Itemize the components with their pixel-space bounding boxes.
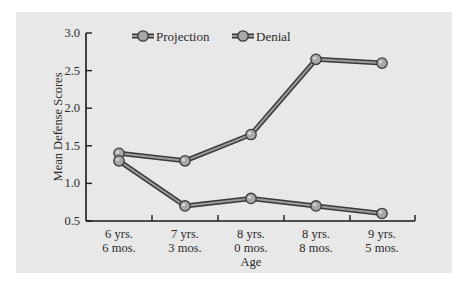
- x-tick-label: 6 yrs.: [105, 227, 133, 241]
- projection-marker-highlight: [379, 60, 382, 63]
- projection-marker-highlight: [313, 56, 316, 59]
- x-tick-label: 7 yrs.: [171, 227, 199, 241]
- projection-marker: [180, 156, 190, 166]
- denial-marker: [114, 156, 124, 166]
- x-tick-label: 8 yrs.: [302, 227, 330, 241]
- projection-marker: [311, 54, 321, 64]
- projection-line: [119, 59, 382, 161]
- denial-marker-highlight: [248, 196, 251, 199]
- projection-marker-highlight: [182, 158, 185, 161]
- legend-marker-icon: [238, 31, 248, 41]
- y-axis-title: Mean Defense Scores: [51, 72, 65, 181]
- projection-line-outline: [119, 59, 382, 161]
- projection-marker: [377, 58, 387, 68]
- x-tick-label: 6 mos.: [102, 241, 135, 255]
- denial-marker: [377, 208, 387, 218]
- y-tick-label: 2.0: [64, 101, 80, 115]
- y-tick-label: 0.5: [64, 214, 80, 228]
- legend-label: Projection: [156, 29, 210, 44]
- legend-marker-icon: [138, 31, 148, 41]
- y-tick-label: 1.0: [64, 176, 80, 190]
- denial-marker-highlight: [182, 203, 185, 206]
- legend-item-denial: Denial: [232, 29, 291, 44]
- line-chart: 0.51.01.52.02.53.0Mean Defense Scores6 y…: [0, 0, 465, 289]
- x-tick-label: 0 mos.: [234, 241, 267, 255]
- y-tick-label: 2.5: [64, 64, 80, 78]
- x-tick-label: 8 mos.: [299, 241, 332, 255]
- denial-marker-highlight: [379, 211, 382, 214]
- x-tick-label: 9 yrs.: [368, 227, 396, 241]
- projection-marker-highlight: [116, 150, 119, 153]
- x-tick-label: 5 mos.: [365, 241, 398, 255]
- legend-label: Denial: [256, 29, 291, 44]
- denial-marker: [311, 201, 321, 211]
- x-tick-label: 8 yrs.: [237, 227, 265, 241]
- projection-marker-highlight: [248, 132, 251, 135]
- denial-line: [119, 161, 382, 214]
- denial-marker-highlight: [313, 203, 316, 206]
- denial-marker: [180, 201, 190, 211]
- y-tick-label: 3.0: [64, 26, 80, 40]
- projection-marker: [246, 129, 256, 139]
- x-tick-label: 3 mos.: [168, 241, 201, 255]
- legend-item-projection: Projection: [132, 29, 210, 44]
- x-axis-title: Age: [241, 255, 262, 269]
- y-tick-label: 1.5: [64, 139, 80, 153]
- denial-marker: [246, 193, 256, 203]
- denial-marker-highlight: [116, 158, 119, 161]
